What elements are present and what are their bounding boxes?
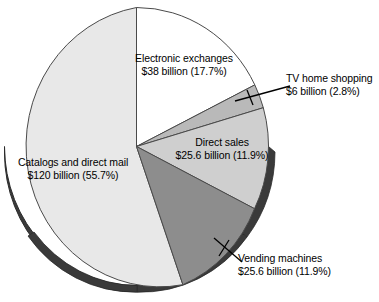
pie-label-direct-sales-name: Direct sales bbox=[168, 136, 276, 149]
pie-label-vending-machines-name: Vending machines bbox=[238, 252, 358, 265]
pie-label-catalogs-and-direct-mail: Catalogs and direct mail $120 billion (5… bbox=[8, 156, 138, 181]
pie-chart-figure: Electronic exchanges $38 billion (17.7%)… bbox=[0, 0, 379, 302]
pie-label-electronic-exchanges-name: Electronic exchanges bbox=[128, 52, 240, 65]
pie-label-tv-home-shopping: TV home shopping $6 billion (2.8%) bbox=[286, 72, 379, 97]
pie-label-electronic-exchanges: Electronic exchanges $38 billion (17.7%) bbox=[128, 52, 240, 77]
pie-label-direct-sales-value: $25.6 billion (11.9%) bbox=[168, 149, 276, 162]
pie-label-catalogs-and-direct-mail-name: Catalogs and direct mail bbox=[8, 156, 138, 169]
pie-label-vending-machines-value: $25.6 billion (11.9%) bbox=[238, 265, 358, 278]
pie-label-tv-home-shopping-value: $6 billion (2.8%) bbox=[286, 85, 379, 98]
pie-label-electronic-exchanges-value: $38 billion (17.7%) bbox=[128, 65, 240, 78]
pie-label-tv-home-shopping-name: TV home shopping bbox=[286, 72, 379, 85]
pie-label-vending-machines: Vending machines $25.6 billion (11.9%) bbox=[238, 252, 358, 277]
pie-label-direct-sales: Direct sales $25.6 billion (11.9%) bbox=[168, 136, 276, 161]
pie-label-catalogs-and-direct-mail-value: $120 billion (55.7%) bbox=[8, 169, 138, 182]
